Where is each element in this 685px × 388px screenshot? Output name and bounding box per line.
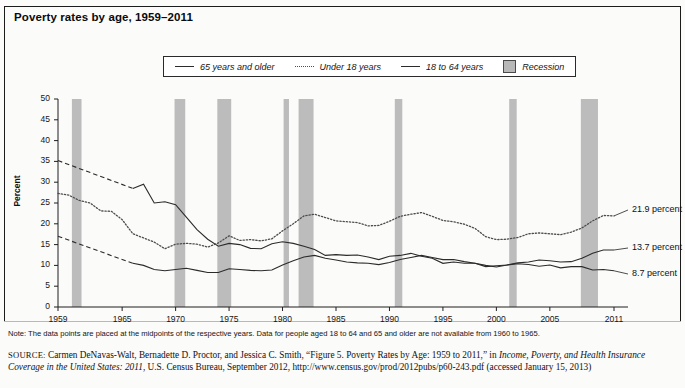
end-label-leader-2 xyxy=(614,271,628,274)
y-tick-label: 5 xyxy=(28,280,50,290)
end-label-leader-0 xyxy=(614,210,628,216)
x-tick-label: 1965 xyxy=(102,314,142,324)
x-tick-label: 1959 xyxy=(38,314,78,324)
recession-band-2 xyxy=(217,99,231,307)
source-prefix: SOURCE: xyxy=(8,350,46,360)
y-tick-label: 15 xyxy=(28,239,50,249)
end-label-13.7: 13.7 percent xyxy=(632,242,682,252)
poverty-rate-line-chart xyxy=(0,0,685,330)
y-tick-label: 45 xyxy=(28,114,50,124)
x-tick-label: 1970 xyxy=(156,314,196,324)
y-tick-label: 35 xyxy=(28,155,50,165)
series-line-dashed-0 xyxy=(58,161,133,189)
x-tick-label: 1995 xyxy=(423,314,463,324)
y-tick-label: 25 xyxy=(28,197,50,207)
y-tick-label: 20 xyxy=(28,218,50,228)
figure-page: Poverty rates by age, 1959–2011 65 years… xyxy=(0,0,685,388)
x-tick-label: 2005 xyxy=(530,314,570,324)
x-tick-label: 2011 xyxy=(594,314,634,324)
source-text-1: Carmen DeNavas-Walt, Bernadette D. Proct… xyxy=(46,350,499,360)
end-label-leader-1 xyxy=(614,248,628,250)
chart-plot-area: Percent 05101520253035404550195919651970… xyxy=(0,0,685,330)
series-line-2 xyxy=(133,250,614,272)
x-tick-label: 1990 xyxy=(369,314,409,324)
recession-band-7 xyxy=(581,99,598,307)
recession-band-1 xyxy=(175,99,186,307)
end-label-21.9: 21.9 percent xyxy=(632,204,682,214)
figure-note: Note: The data points are placed at the … xyxy=(8,329,676,339)
y-axis-title: Percent xyxy=(12,161,22,221)
recession-band-6 xyxy=(509,99,516,307)
recession-band-5 xyxy=(395,99,402,307)
y-tick-label: 10 xyxy=(28,259,50,269)
recession-band-4 xyxy=(299,99,314,307)
series-line-0 xyxy=(133,184,614,271)
recession-band-0 xyxy=(72,99,82,307)
series-line-1 xyxy=(58,193,614,248)
y-tick-label: 50 xyxy=(28,93,50,103)
x-tick-label: 1980 xyxy=(263,314,303,324)
x-tick-label: 1985 xyxy=(316,314,356,324)
x-tick-label: 1975 xyxy=(209,314,249,324)
y-tick-label: 0 xyxy=(28,301,50,311)
series-line-dashed-2 xyxy=(58,236,133,263)
x-tick-label: 2000 xyxy=(476,314,516,324)
y-tick-label: 40 xyxy=(28,135,50,145)
source-text-2: , U.S. Census Bureau, September 2012, ht… xyxy=(143,362,591,372)
recession-band-3 xyxy=(284,99,289,307)
figure-source: SOURCE: Carmen DeNavas-Walt, Bernadette … xyxy=(8,349,676,374)
end-label-8.7: 8.7 percent xyxy=(632,268,677,278)
y-tick-label: 30 xyxy=(28,176,50,186)
